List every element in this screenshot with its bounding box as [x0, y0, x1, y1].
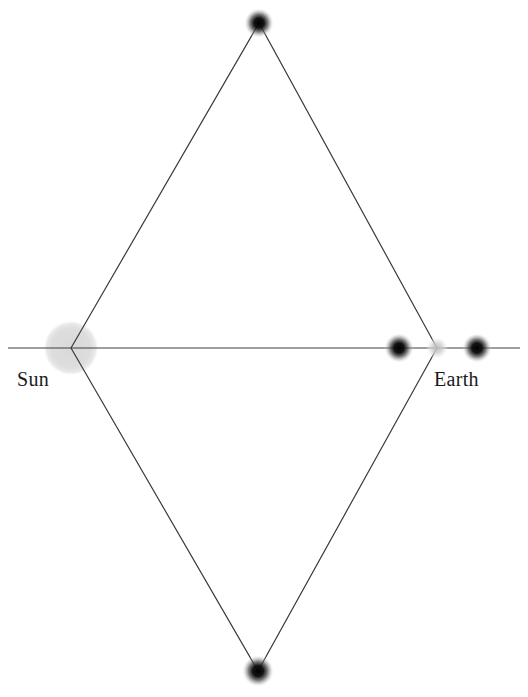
sun-label: Sun: [17, 369, 49, 389]
top-image-dot: [244, 8, 274, 38]
earth-dot: [426, 337, 448, 359]
upper-light-path: [71, 23, 437, 348]
figure-root: Sun Earth: [0, 0, 528, 697]
earth-label: Earth: [434, 369, 479, 389]
lower-light-path: [71, 348, 437, 671]
ray-diagram-canvas: [0, 0, 528, 697]
outer-dark-dot: [462, 333, 492, 363]
bottom-image-dot: [242, 655, 274, 687]
inner-dark-dot: [384, 333, 414, 363]
